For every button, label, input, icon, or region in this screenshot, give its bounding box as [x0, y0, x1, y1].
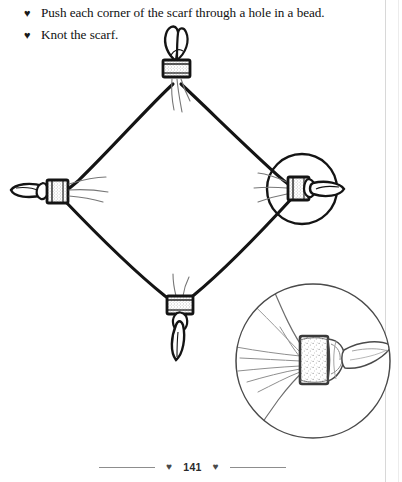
- heart-icon-left: ♥: [166, 462, 172, 472]
- fringe-bottom: [173, 274, 189, 296]
- page-canvas: ♥ Push each corner of the scarf through …: [0, 0, 402, 482]
- detail-callout-large: [234, 282, 394, 442]
- heart-icon-right: ♥: [213, 462, 219, 472]
- corner-assembly-bottom: [167, 274, 193, 360]
- footer-rule-left: [99, 467, 155, 468]
- bead-bottom: [167, 296, 193, 314]
- page-number: 141: [183, 461, 201, 473]
- corner-assembly-top: [163, 27, 190, 112]
- bead-magnified: [300, 336, 328, 384]
- scarf-bead-illustration: [0, 0, 402, 460]
- footer-rule-right: [230, 467, 286, 468]
- bead-top: [163, 60, 190, 77]
- page-footer: ♥ 141 ♥: [0, 458, 385, 476]
- fringe-left: [69, 177, 108, 202]
- scarf-diamond-outline: [63, 84, 294, 303]
- corner-assembly-left: [11, 177, 108, 203]
- scarf-tip-right: [310, 182, 344, 196]
- scarf-tip-top: [165, 27, 187, 61]
- bead-left: [47, 180, 68, 203]
